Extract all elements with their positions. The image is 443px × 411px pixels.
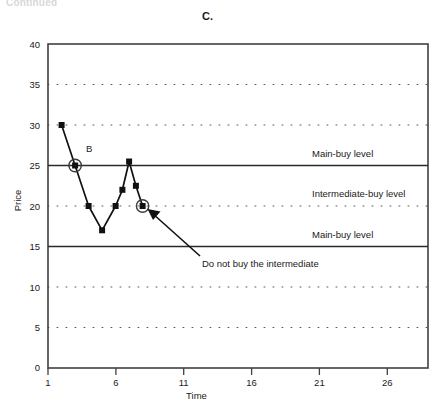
- reference-line-label-main-buy-upper: Main-buy level: [312, 148, 373, 159]
- x-axis-title-text: Time: [186, 390, 207, 401]
- y-tick-label: 40: [14, 39, 40, 50]
- y-tick-label: 35: [14, 79, 40, 90]
- x-axis-title: Time: [0, 390, 443, 401]
- x-tick-label: 16: [239, 377, 265, 388]
- x-tick-label: 1: [35, 377, 61, 388]
- x-tick-label: 26: [374, 377, 400, 388]
- y-axis-title: Price: [12, 171, 23, 231]
- y-tick-label: 15: [14, 241, 40, 252]
- x-tick-label: 21: [306, 377, 332, 388]
- reference-line-label-intermediate-buy: Intermediate-buy level: [312, 188, 405, 199]
- y-tick-label: 30: [14, 120, 40, 131]
- y-tick-label: 0: [14, 362, 40, 373]
- x-tick-label: 6: [103, 377, 129, 388]
- data-point-label-b: B: [86, 143, 92, 154]
- y-tick-label: 5: [14, 322, 40, 333]
- chart-page: Continued C.: [0, 0, 443, 411]
- y-tick-label: 25: [14, 160, 40, 171]
- x-tick-label: 11: [171, 377, 197, 388]
- data-markers: [59, 122, 146, 233]
- data-series-line: [62, 125, 143, 230]
- gridlines: [48, 85, 428, 328]
- plot-area: [0, 0, 443, 411]
- annotation-do-not-buy-intermediate: Do not buy the intermediate: [202, 258, 319, 269]
- y-tick-label: 10: [14, 282, 40, 293]
- x-axis-ticks: [48, 368, 387, 375]
- annotation-arrow: [148, 209, 201, 256]
- reference-line-label-main-buy-lower: Main-buy level: [312, 229, 373, 240]
